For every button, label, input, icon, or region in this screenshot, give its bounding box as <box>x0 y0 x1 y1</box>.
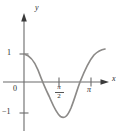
x-axis-label: x <box>112 75 116 83</box>
graph-figure: y x 1 0 −1 π 2 π <box>0 0 122 134</box>
tick-label-x-pi: π <box>87 86 91 94</box>
pi-symbol: π <box>87 85 91 94</box>
pi-over-two-numerator: π <box>52 84 66 91</box>
pi-over-two-denominator: 2 <box>52 93 66 100</box>
tick-label-y-negative-one: −1 <box>2 108 11 116</box>
x-axis-arrowhead <box>101 79 110 85</box>
y-axis-arrowhead <box>21 13 27 22</box>
graph-canvas <box>0 0 122 134</box>
tick-label-y-one: 1 <box>7 49 11 57</box>
tick-label-origin: 0 <box>13 85 17 93</box>
tick-label-x-pi-over-two: π 2 <box>52 84 66 101</box>
y-axis-label: y <box>35 4 39 12</box>
